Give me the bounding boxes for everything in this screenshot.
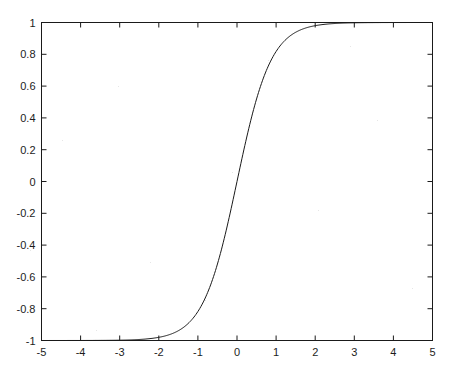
y-tick-label: -1 bbox=[26, 335, 36, 347]
x-tick-label: 4 bbox=[390, 346, 396, 358]
y-tick-label: -0.4 bbox=[17, 239, 36, 251]
tanh-sigmoid-line-chart: -1-0.8-0.6-0.4-0.200.20.40.60.81 -5-4-3-… bbox=[0, 0, 453, 376]
x-tick-label: 2 bbox=[312, 346, 318, 358]
x-tick-label: -3 bbox=[115, 346, 125, 358]
y-tick-label: 0 bbox=[29, 176, 35, 188]
x-tick-label: 5 bbox=[429, 346, 435, 358]
y-tick-label: 0.6 bbox=[20, 80, 35, 92]
x-tick-label: 3 bbox=[351, 346, 357, 358]
y-tick-label: 0.2 bbox=[20, 144, 35, 156]
y-tick-label: 0.4 bbox=[20, 112, 35, 124]
x-tick-label: -4 bbox=[76, 346, 86, 358]
x-tick-label: -1 bbox=[193, 346, 203, 358]
x-tick-label: 1 bbox=[273, 346, 279, 358]
x-tick-label: -5 bbox=[37, 346, 47, 358]
x-tick-label: 0 bbox=[234, 346, 240, 358]
y-tick-label: 0.8 bbox=[20, 48, 35, 60]
x-tick-label: -2 bbox=[154, 346, 164, 358]
chart-figure: -1-0.8-0.6-0.4-0.200.20.40.60.81 -5-4-3-… bbox=[0, 0, 453, 376]
y-tick-label: 1 bbox=[29, 17, 35, 29]
y-tick-label: -0.2 bbox=[17, 207, 36, 219]
chart-background bbox=[0, 0, 453, 376]
y-tick-label: -0.8 bbox=[17, 303, 36, 315]
y-tick-label: -0.6 bbox=[17, 271, 36, 283]
